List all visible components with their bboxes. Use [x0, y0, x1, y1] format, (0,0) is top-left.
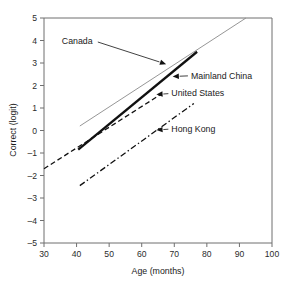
y-tick-label: 1	[32, 103, 37, 113]
x-tick-label: 100	[265, 249, 280, 259]
y-tick-label: 0	[32, 126, 37, 136]
y-axis-ticks: 543210–1–2–3–4–5	[27, 13, 44, 248]
line-chart: 30405060708090100 543210–1–2–3–4–5 Canad…	[0, 0, 295, 284]
y-tick-label: 2	[32, 81, 37, 91]
x-tick-label: 90	[235, 249, 245, 259]
x-axis-title: Age (months)	[132, 266, 185, 276]
y-tick-label: 4	[32, 36, 37, 46]
x-tick-label: 60	[137, 249, 147, 259]
y-tick-label: –2	[27, 171, 37, 181]
chart-container: 30405060708090100 543210–1–2–3–4–5 Canad…	[0, 0, 295, 284]
y-tick-label: –4	[27, 216, 37, 226]
annotation-label-mainland-china: Mainland China	[191, 71, 252, 81]
x-tick-label: 30	[39, 249, 49, 259]
y-tick-label: 5	[32, 13, 37, 23]
x-tick-label: 80	[202, 249, 212, 259]
x-axis-ticks: 30405060708090100	[39, 243, 279, 259]
annotation-label-canada: Canada	[62, 36, 93, 46]
x-tick-label: 50	[104, 249, 114, 259]
annotation-label-united-states: United States	[171, 88, 224, 98]
x-tick-label: 70	[170, 249, 180, 259]
y-tick-label: –1	[27, 148, 37, 158]
y-tick-label: –3	[27, 193, 37, 203]
y-tick-label: 3	[32, 58, 37, 68]
x-tick-label: 40	[72, 249, 82, 259]
y-tick-label: –5	[27, 238, 37, 248]
y-axis-title: Correct (logit)	[8, 103, 18, 156]
annotation-label-hong-kong: Hong Kong	[171, 124, 215, 134]
